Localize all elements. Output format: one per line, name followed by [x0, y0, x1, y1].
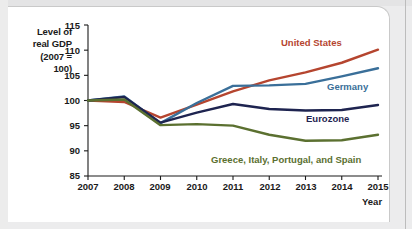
series-lines — [88, 50, 378, 141]
series-line-greece-italy-portugal-and-spain — [88, 99, 378, 140]
series-line-eurozone — [88, 97, 378, 123]
plot-area — [0, 0, 412, 229]
series-line-united-states — [88, 50, 378, 118]
x-axis-ticks — [88, 176, 378, 180]
axis-lines — [88, 25, 382, 176]
series-line-germany — [88, 68, 378, 123]
figure-root: Level of real GDP (2007 = 100) 115 110 1… — [0, 0, 412, 229]
